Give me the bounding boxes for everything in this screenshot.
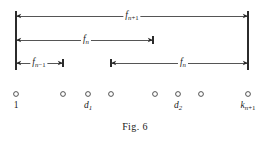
node-1-label-base: 1 bbox=[14, 100, 19, 110]
span-fn-upper-label-subscript: n bbox=[86, 38, 89, 45]
node-2-marker bbox=[61, 92, 66, 97]
figure-6-diagram: fn+1fnfn−1fn1d1d2kn+1 Fig. 6 bbox=[0, 0, 270, 141]
span-fn-lower-label: fn bbox=[178, 58, 188, 68]
span-fn-lower-label-subscript: n bbox=[183, 61, 186, 68]
node-4-marker bbox=[109, 92, 114, 97]
span-fn-minus-1-label-offset: −1 bbox=[38, 61, 45, 68]
span-fn-plus-1-label: fn+1 bbox=[123, 11, 140, 21]
node-1-marker bbox=[14, 92, 19, 97]
node-d1-label: d1 bbox=[84, 101, 92, 111]
node-k-n-plus-1-label-offset: +1 bbox=[248, 104, 255, 111]
node-k-n-plus-1-marker bbox=[246, 92, 251, 97]
node-d2-label: d2 bbox=[174, 101, 182, 111]
span-fn-minus-1-label: fn−1 bbox=[30, 58, 47, 68]
node-1-label: 1 bbox=[14, 101, 19, 111]
span-fn-plus-1-label-offset: +1 bbox=[131, 14, 138, 21]
figure-caption: Fig. 6 bbox=[0, 121, 270, 132]
node-5-marker bbox=[153, 92, 158, 97]
node-k-n-plus-1-label: kn+1 bbox=[241, 101, 256, 111]
node-d2-marker bbox=[176, 92, 181, 97]
node-d2-label-subscript: 2 bbox=[179, 104, 182, 111]
span-fn-upper-label: fn bbox=[81, 35, 91, 45]
node-7-marker bbox=[199, 92, 204, 97]
node-d1-marker bbox=[86, 92, 91, 97]
node-d1-label-subscript: 1 bbox=[89, 104, 92, 111]
